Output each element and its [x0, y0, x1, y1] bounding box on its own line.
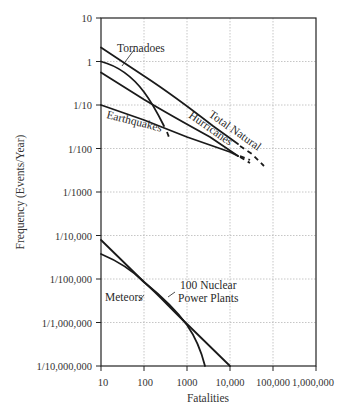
- x-axis-title: Fatalities: [187, 392, 230, 404]
- annotation-earthquakes: Earthquakes: [105, 108, 164, 134]
- y-axis-ticks: [96, 18, 101, 366]
- series-meteors: [101, 254, 205, 366]
- annotation-tornadoes: Tornadoes: [117, 42, 165, 54]
- nuclear-leader: [168, 292, 175, 297]
- y-tick-label: 1/1000: [63, 187, 92, 198]
- x-axis-tick-labels: 10 100 1000 10,000 100,000 1,000,000: [98, 377, 334, 388]
- x-tick-label: 10,000: [216, 377, 245, 388]
- x-tick-label: 100: [137, 377, 153, 388]
- risk-frequency-chart: 10 1 1/10 1/100 1/1000 1/10,000 1/100,00…: [0, 0, 344, 419]
- y-tick-label: 1/1,000,000: [42, 318, 92, 329]
- y-tick-label: 1: [87, 57, 92, 68]
- x-tick-label: 100,000: [256, 377, 290, 388]
- y-tick-label: 10: [82, 13, 93, 24]
- vertical-gridlines: [144, 18, 273, 366]
- y-tick-label: 1/10: [73, 100, 92, 111]
- x-tick-label: 1,000,000: [292, 377, 334, 388]
- annotation-meteors: Meteors: [105, 291, 143, 303]
- x-tick-label: 1000: [177, 377, 198, 388]
- annotation-nuclear-line2: Power Plants: [178, 292, 239, 304]
- y-tick-label: 1/100: [68, 144, 92, 155]
- y-tick-label: 1/10,000: [55, 231, 92, 242]
- x-axis-ticks: [101, 366, 316, 371]
- plot-frame: [101, 18, 316, 366]
- y-axis-tick-labels: 10 1 1/10 1/100 1/1000 1/10,000 1/100,00…: [37, 13, 92, 372]
- y-axis-title: Frequency (Events/Year): [14, 134, 27, 249]
- y-tick-label: 1/100,000: [50, 274, 92, 285]
- annotation-nuclear-line1: 100 Nuclear: [180, 279, 237, 291]
- y-tick-label: 1/10,000,000: [37, 361, 92, 372]
- x-tick-label: 10: [98, 377, 109, 388]
